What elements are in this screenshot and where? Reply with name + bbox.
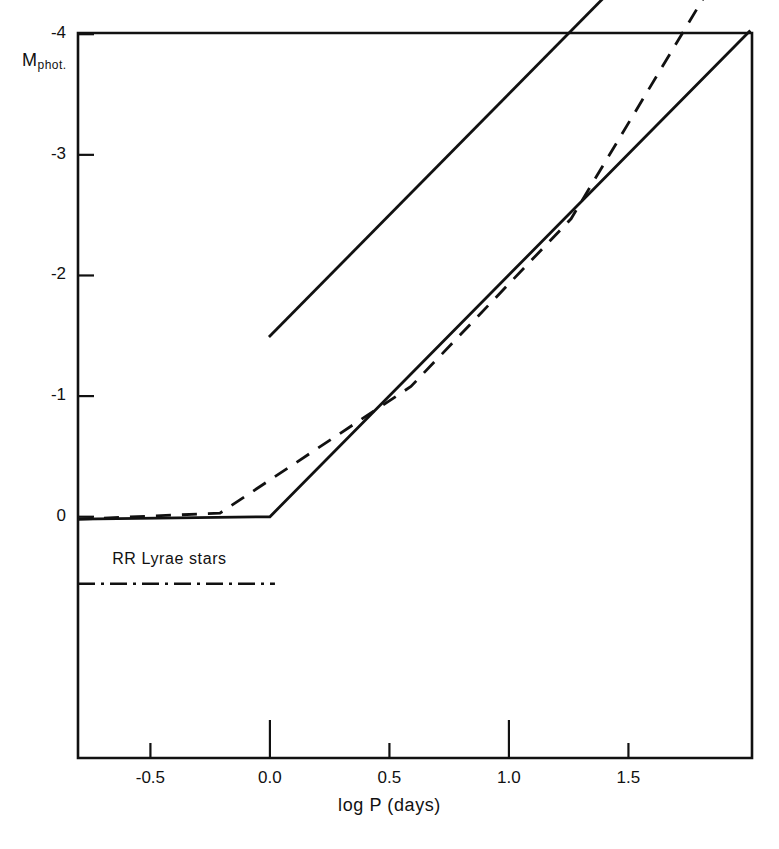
y-tick-marks bbox=[78, 34, 94, 517]
y-tick-label: -2 bbox=[20, 264, 66, 284]
y-axis-label-subscript: phot. bbox=[38, 58, 67, 72]
data-series-layer bbox=[78, 0, 752, 584]
y-axis-label-base: M bbox=[22, 50, 38, 70]
upper-solid-line bbox=[269, 0, 634, 337]
rr-lyrae-stars-label: RR Lyrae stars bbox=[112, 550, 227, 568]
y-tick-label: 0 bbox=[20, 506, 66, 526]
x-tick-label: 1.5 bbox=[598, 768, 658, 788]
y-tick-label: -3 bbox=[20, 144, 66, 164]
x-tick-label: 0.0 bbox=[240, 768, 300, 788]
y-tick-label: -4 bbox=[20, 23, 66, 43]
figure-root: Mphot. log P (days) -0.50.00.51.01.50-1-… bbox=[0, 0, 779, 849]
x-tick-label: 1.0 bbox=[479, 768, 539, 788]
y-tick-label: -1 bbox=[20, 385, 66, 405]
x-axis-label: log P (days) bbox=[0, 795, 779, 816]
plot-canvas bbox=[0, 0, 779, 849]
dashed-line bbox=[78, 0, 752, 519]
plot-frame bbox=[78, 33, 752, 758]
x-tick-label: 0.5 bbox=[359, 768, 419, 788]
x-tick-label: -0.5 bbox=[120, 768, 180, 788]
axis-frame bbox=[78, 33, 752, 758]
lower-solid-line bbox=[78, 31, 750, 520]
x-tick-marks bbox=[150, 720, 628, 758]
y-axis-label: Mphot. bbox=[22, 50, 67, 72]
